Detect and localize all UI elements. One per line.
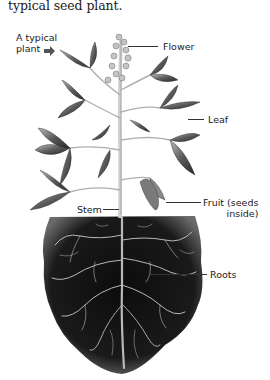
flower-leader — [128, 46, 158, 47]
stem-leader — [103, 209, 119, 210]
leaf-label: Leaf — [208, 114, 228, 125]
leaf-leader — [188, 119, 204, 120]
fruit-label: Fruit (seeds inside) — [203, 197, 258, 219]
flower-label: Flower — [163, 41, 194, 52]
plant-illustration — [0, 0, 270, 380]
flower-cluster — [105, 34, 131, 83]
fruit-leader — [166, 202, 201, 203]
roots-label: Roots — [210, 269, 236, 280]
leaves-drawing — [30, 42, 200, 210]
roots-leader — [150, 274, 207, 275]
stem-label: Stem — [77, 204, 102, 215]
intro-label: A typical plant — [16, 32, 57, 54]
